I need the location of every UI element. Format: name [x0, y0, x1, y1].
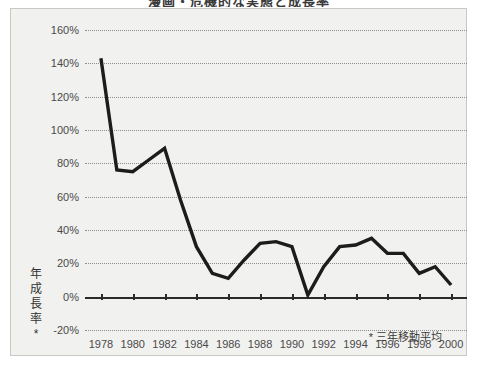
y-axis-caption-char: 年	[27, 267, 45, 282]
x-axis-tick-label: 1992	[312, 338, 336, 350]
y-axis-caption: 年 成 長 率 *	[27, 267, 45, 342]
x-axis-tick-label: 2000	[439, 338, 463, 350]
x-axis-tick-label: 1988	[248, 338, 272, 350]
y-axis-caption-char: 率	[27, 312, 45, 327]
x-axis-tick-label: 1978	[89, 338, 113, 350]
chart-screenshot: 漫画・危機的な実態と成長率 年 成 長 率 * 160%140%120%100%…	[0, 0, 477, 366]
plot-area: 160%140%120%100%80%60%40%20%0%-20%197819…	[85, 30, 467, 330]
plot-inner: 160%140%120%100%80%60%40%20%0%-20%197819…	[85, 30, 467, 330]
y-axis-tick-label: 60%	[57, 191, 79, 203]
y-axis-tick-label: 80%	[57, 157, 79, 169]
y-axis-tick-label: 100%	[51, 124, 79, 136]
y-axis-tick-label: 120%	[51, 91, 79, 103]
data-series-line	[85, 30, 467, 330]
chart-footnote: * 三年移動平均	[369, 328, 442, 344]
x-axis-tick-label: 1984	[184, 338, 208, 350]
y-axis-tick-label: -20%	[53, 324, 79, 336]
chart-panel: 年 成 長 率 * 160%140%120%100%80%60%40%20%0%…	[10, 8, 467, 356]
x-axis-tick-label: 1986	[216, 338, 240, 350]
y-axis-caption-char: 長	[27, 297, 45, 312]
x-axis-tick-label: 1982	[152, 338, 176, 350]
y-axis-tick-label: 140%	[51, 57, 79, 69]
y-axis-caption-char: 成	[27, 282, 45, 297]
y-axis-caption-char: *	[27, 327, 45, 342]
x-axis-tick-label: 1994	[343, 338, 367, 350]
x-axis-tick-label: 1990	[280, 338, 304, 350]
y-axis-tick-label: 20%	[57, 257, 79, 269]
y-axis-tick-label: 40%	[57, 224, 79, 236]
y-axis-tick-label: 160%	[51, 24, 79, 36]
x-axis-tick-label: 1980	[121, 338, 145, 350]
y-axis-tick-label: 0%	[63, 291, 79, 303]
chart-title: 漫画・危機的な実態と成長率	[0, 0, 477, 7]
